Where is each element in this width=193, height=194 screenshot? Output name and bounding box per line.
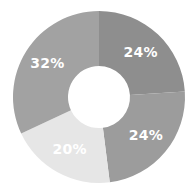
- donut-slice: [13, 11, 99, 134]
- donut-chart: 24%24%20%32%: [0, 0, 193, 194]
- slice-label: 24%: [124, 44, 158, 60]
- slice-label: 32%: [30, 55, 64, 71]
- donut-slices: [13, 11, 185, 183]
- slice-label: 20%: [52, 141, 86, 157]
- slice-label: 24%: [129, 127, 163, 143]
